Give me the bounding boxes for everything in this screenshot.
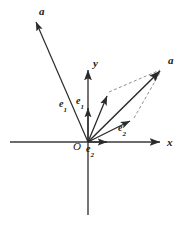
vector-diagram-figure: a a y x O e1 e1 e2 e2 (0, 0, 180, 227)
label-e2-bottom: e2 (86, 144, 94, 157)
label-vector-a-upper-right: a (168, 55, 174, 66)
label-e2-slant-subscript: 2 (122, 130, 126, 138)
label-e2-slant: e2 (118, 123, 126, 136)
label-e1-right-subscript: 1 (80, 103, 84, 111)
label-e1-left: e1 (59, 99, 67, 112)
label-e1-right: e1 (76, 96, 84, 109)
label-y-axis: y (93, 58, 98, 69)
vector-a-upper-left (36, 22, 88, 142)
label-origin: O (73, 141, 81, 152)
label-e1-left-subscript: 1 (63, 106, 67, 114)
label-x-axis: x (167, 137, 173, 148)
label-e2-bottom-subscript: 2 (90, 151, 94, 159)
vector-e1-slant (88, 96, 107, 142)
diagram-canvas (0, 0, 180, 227)
label-vector-a-upper-left: a (39, 6, 45, 17)
